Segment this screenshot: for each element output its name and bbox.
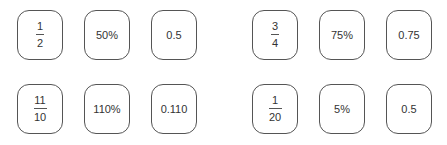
decimal-card-0-5-b[interactable]: 0.5: [386, 84, 432, 134]
numerator: 3: [272, 21, 278, 34]
numerator: 1: [272, 95, 278, 108]
fraction: 11 10: [34, 95, 47, 123]
percent-value: 5%: [334, 103, 350, 115]
percent-value: 50%: [96, 29, 118, 41]
decimal-value: 0.5: [401, 103, 416, 115]
decimal-card-0-5[interactable]: 0.5: [151, 10, 197, 60]
fraction-card-1-20[interactable]: 1 20: [252, 84, 298, 134]
decimal-value: 0.110: [161, 103, 188, 115]
denominator: 2: [37, 35, 43, 49]
percent-value: 75%: [331, 29, 353, 41]
decimal-card-0-75[interactable]: 0.75: [386, 10, 432, 60]
fraction: 1 2: [36, 21, 44, 49]
numerator: 1: [37, 21, 43, 34]
decimal-card-0-110[interactable]: 0.110: [151, 84, 197, 134]
fraction-card-11-10[interactable]: 11 10: [17, 84, 63, 134]
percent-card-75[interactable]: 75%: [319, 10, 365, 60]
decimal-value: 0.75: [398, 29, 419, 41]
percent-value: 110%: [93, 103, 120, 115]
fraction-card-1-2[interactable]: 1 2: [17, 10, 63, 60]
fraction-card-3-4[interactable]: 3 4: [252, 10, 298, 60]
percent-card-50[interactable]: 50%: [84, 10, 130, 60]
denominator: 4: [272, 35, 278, 49]
denominator: 10: [34, 109, 46, 123]
fraction: 1 20: [269, 95, 282, 123]
percent-card-5[interactable]: 5%: [319, 84, 365, 134]
numerator: 11: [34, 95, 45, 108]
percent-card-110[interactable]: 110%: [84, 84, 130, 134]
fraction: 3 4: [271, 21, 279, 49]
decimal-value: 0.5: [166, 29, 181, 41]
denominator: 20: [269, 109, 281, 123]
